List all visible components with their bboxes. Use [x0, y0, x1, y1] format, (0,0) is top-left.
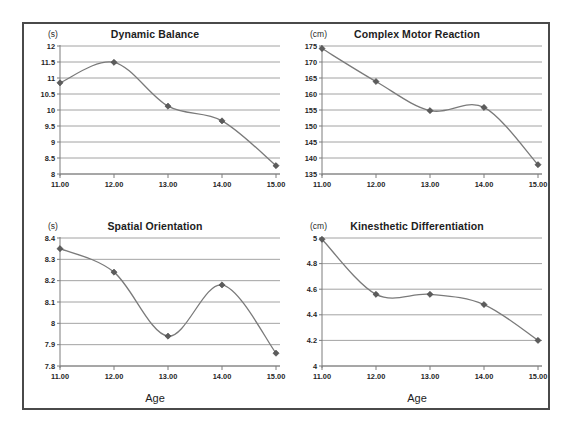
y-tick-label: 140 — [305, 154, 317, 163]
panel-complex-motor-reaction: Complex Motor Reaction (cm) 175170165160… — [286, 24, 548, 216]
x-axis-caption: Age — [24, 392, 286, 404]
x-tick-label: 15.00 — [267, 180, 286, 189]
y-tick-label: 8.5 — [45, 154, 55, 163]
y-tick-label: 10 — [47, 106, 55, 115]
x-tick-label: 15.00 — [529, 180, 548, 189]
y-tick-label: 175 — [305, 42, 317, 51]
y-tick-label: 8.3 — [45, 255, 55, 264]
data-point-marker — [165, 103, 171, 109]
y-tick-label: 8.1 — [45, 298, 55, 307]
data-series-line — [60, 62, 276, 166]
y-tick-label: 11.5 — [41, 58, 55, 67]
chart-svg: 54.84.64.44.2411.0012.0013.0014.0015.00 — [286, 216, 548, 408]
y-tick-label: 4.2 — [307, 336, 317, 345]
y-tick-label: 8 — [51, 319, 55, 328]
x-tick-label: 12.00 — [367, 372, 386, 381]
x-axis-caption: Age — [286, 392, 548, 404]
x-tick-label: 11.00 — [51, 372, 69, 381]
x-tick-label: 13.00 — [159, 180, 178, 189]
data-point-marker — [373, 78, 379, 84]
data-point-marker — [165, 333, 171, 339]
y-tick-label: 160 — [305, 90, 317, 99]
y-tick-label: 4.4 — [307, 310, 318, 319]
data-series-line — [322, 239, 538, 340]
figure-frame: Dynamic Balance (s) 1211.51110.5109.598.… — [22, 22, 550, 410]
plot-area: 8.48.38.28.187.97.811.0012.0013.0014.001… — [24, 216, 286, 408]
data-point-marker — [57, 246, 63, 252]
data-point-marker — [57, 80, 63, 86]
panel-dynamic-balance: Dynamic Balance (s) 1211.51110.5109.598.… — [24, 24, 286, 216]
y-tick-label: 4 — [313, 362, 318, 371]
y-tick-label: 155 — [305, 106, 317, 115]
data-point-marker — [219, 118, 225, 124]
x-tick-label: 11.00 — [313, 372, 331, 381]
y-tick-label: 165 — [305, 74, 317, 83]
y-tick-label: 135 — [305, 170, 317, 179]
x-tick-label: 15.00 — [267, 372, 286, 381]
data-point-marker — [219, 282, 225, 288]
x-tick-label: 14.00 — [213, 180, 232, 189]
y-tick-label: 145 — [305, 138, 317, 147]
y-tick-label: 10.5 — [41, 90, 55, 99]
plot-area: 17517016516015515014514013511.0012.0013.… — [286, 24, 548, 216]
plot-area: 54.84.64.44.2411.0012.0013.0014.0015.00 — [286, 216, 548, 408]
data-point-marker — [427, 108, 433, 114]
x-tick-label: 13.00 — [159, 372, 178, 381]
y-tick-label: 7.8 — [45, 362, 55, 371]
x-tick-label: 12.00 — [105, 180, 124, 189]
y-tick-label: 4.8 — [307, 259, 317, 268]
x-tick-label: 14.00 — [475, 180, 494, 189]
y-tick-label: 12 — [47, 42, 55, 51]
x-tick-label: 14.00 — [475, 372, 494, 381]
chart-svg: 8.48.38.28.187.97.811.0012.0013.0014.001… — [24, 216, 286, 408]
chart-svg: 1211.51110.5109.598.5811.0012.0013.0014.… — [24, 24, 286, 216]
x-tick-label: 13.00 — [421, 372, 440, 381]
panel-grid: Dynamic Balance (s) 1211.51110.5109.598.… — [24, 24, 548, 408]
x-tick-label: 11.00 — [51, 180, 69, 189]
chart-svg: 17517016516015515014514013511.0012.0013.… — [286, 24, 548, 216]
y-tick-label: 9 — [51, 138, 55, 147]
y-tick-label: 9.5 — [45, 122, 55, 131]
x-tick-label: 12.00 — [105, 372, 124, 381]
plot-area: 1211.51110.5109.598.5811.0012.0013.0014.… — [24, 24, 286, 216]
y-tick-label: 7.9 — [45, 340, 55, 349]
panel-spatial-orientation: Spatial Orientation (s) 8.48.38.28.187.9… — [24, 216, 286, 408]
x-tick-label: 15.00 — [529, 372, 548, 381]
x-tick-label: 13.00 — [421, 180, 440, 189]
panel-kinesthetic-differentiation: Kinesthetic Differentiation (cm) 54.84.6… — [286, 216, 548, 408]
y-tick-label: 5 — [313, 234, 317, 243]
x-tick-label: 14.00 — [213, 372, 232, 381]
y-tick-label: 150 — [305, 122, 317, 131]
y-tick-label: 8.4 — [45, 234, 56, 243]
x-tick-label: 11.00 — [313, 180, 331, 189]
data-point-marker — [111, 59, 117, 65]
y-tick-label: 11 — [47, 74, 55, 83]
y-tick-label: 170 — [305, 58, 317, 67]
data-point-marker — [373, 291, 379, 297]
data-point-marker — [427, 291, 433, 297]
x-tick-label: 12.00 — [367, 180, 386, 189]
data-point-marker — [481, 301, 487, 307]
y-tick-label: 8 — [51, 170, 55, 179]
data-series-line — [322, 49, 538, 165]
y-tick-label: 8.2 — [45, 276, 55, 285]
y-tick-label: 4.6 — [307, 285, 317, 294]
